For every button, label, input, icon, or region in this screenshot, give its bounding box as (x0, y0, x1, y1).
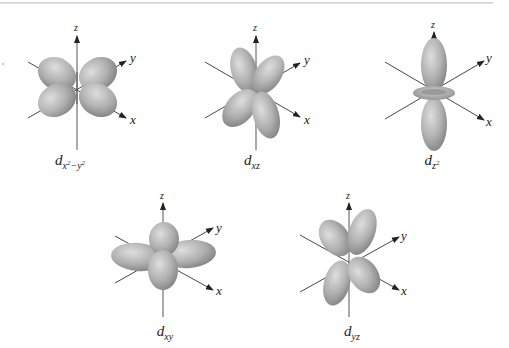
x-label: x (400, 283, 407, 298)
y-label: y (399, 228, 407, 243)
label-dx2-y2: dx2−y2 (55, 152, 85, 171)
z-label: z (252, 22, 257, 33)
x-label: x (485, 114, 492, 129)
orbital-dxy: z y x (110, 190, 222, 317)
orbital-dxz: z y x (205, 22, 310, 150)
y-label: y (302, 52, 310, 67)
label-dxz: dxz (244, 152, 260, 171)
lobe (421, 97, 447, 151)
z-label: z (159, 190, 164, 201)
y-label: y (484, 50, 492, 65)
x-label: x (215, 283, 222, 298)
orbital-dz2: z y x (385, 19, 492, 151)
y-label: y (214, 220, 222, 235)
lobe (73, 76, 124, 124)
z-label: z (430, 19, 435, 30)
label-dxy: dxy (157, 323, 173, 342)
orbital-dyz: z y x (300, 190, 407, 317)
z-label: z (73, 22, 78, 33)
orbital-diagram: z y x z y x z y x z y (0, 0, 509, 348)
orbital-dx2-y2: z y x (28, 22, 136, 150)
x-label: x (303, 112, 310, 127)
y-label: y (128, 50, 136, 65)
label-dz2: dz2 (425, 152, 440, 171)
lobe (148, 250, 178, 290)
label-dyz: dyz (344, 323, 360, 342)
z-label: z (345, 190, 350, 201)
x-label: x (129, 112, 136, 127)
lobe (32, 76, 83, 124)
lobe (421, 38, 447, 92)
